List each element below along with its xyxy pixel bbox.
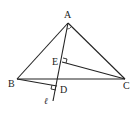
label-d: D — [60, 84, 67, 95]
geometry-figure: A B C E D ℓ — [0, 0, 138, 114]
segment-ab — [17, 23, 68, 79]
segment-bd — [17, 79, 57, 86]
label-c: C — [123, 80, 130, 91]
label-e: E — [52, 56, 58, 67]
label-a: A — [64, 9, 72, 20]
segment-ac — [68, 23, 125, 79]
segment-ce — [62, 62, 125, 79]
label-l: ℓ — [44, 96, 48, 106]
label-b: B — [8, 78, 15, 89]
